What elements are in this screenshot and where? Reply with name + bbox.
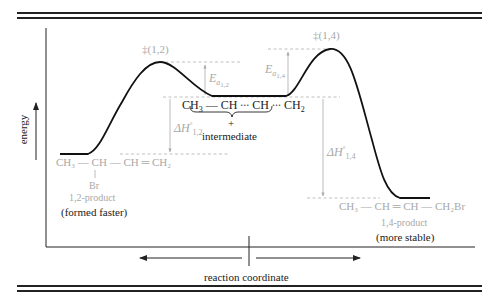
ts-14-label: ‡(1,4)	[313, 30, 340, 41]
energy-axis-label: energy	[18, 115, 29, 145]
reaction-coordinate-label: reaction coordinate	[204, 272, 289, 283]
intermediate-formula: CH3 — CH ∙∙∙ CH ∙∙∙ CH2	[182, 99, 305, 114]
product-14-formula: CH₃ — CH ═ CH — CH₂Br	[339, 201, 465, 212]
product-12-note: (formed faster)	[61, 207, 127, 218]
ea-12-label: Ea1,2	[209, 72, 229, 89]
product-14-name: 1,4-product	[381, 218, 427, 228]
product-12-name: 1,2-product	[69, 193, 115, 203]
energy-diagram	[0, 0, 496, 297]
product-12-formula: CH₃ — CH — CH ═ CH₂	[56, 157, 171, 168]
energy-curve	[60, 49, 430, 198]
dh-14-label: ΔH°1,4	[327, 146, 356, 161]
ea-14-label: Ea1,4	[265, 63, 285, 80]
intermediate-charge: +	[228, 118, 234, 129]
dh-12-label: ΔH°1,2	[174, 122, 203, 137]
reference-lines	[120, 49, 380, 198]
product-14-note: (more stable)	[376, 232, 434, 243]
intermediate-label: intermediate	[202, 131, 257, 142]
product-12-substituent: Br	[89, 181, 99, 191]
ts-12-label: ‡(1,2)	[142, 44, 169, 55]
